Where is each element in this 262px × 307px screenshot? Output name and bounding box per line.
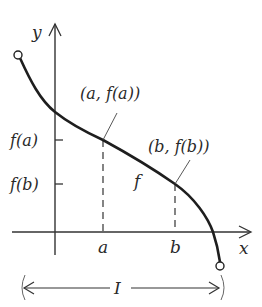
- y-axis-label: y: [31, 22, 42, 42]
- x-tick-label-a: a: [98, 237, 108, 257]
- point-label-a: (a, f(a)): [80, 84, 140, 103]
- left-open-endpoint: [14, 51, 22, 59]
- function-label: f: [132, 171, 143, 191]
- y-tick-label-fb: f(b): [9, 175, 39, 194]
- x-axis-label: x: [239, 238, 249, 258]
- interval-label: I: [113, 278, 121, 298]
- interval-arrow: [22, 275, 224, 300]
- x-tick-label-b: b: [170, 237, 181, 257]
- y-tick-label-fa: f(a): [9, 131, 38, 150]
- leader-b: [175, 160, 190, 184]
- point-label-b: (b, f(b)): [148, 137, 210, 156]
- diagram-canvas: y x f(a) f(b) a b (a, f(a)) (b, f(b)) f: [0, 0, 262, 307]
- leader-a: [103, 113, 117, 140]
- right-open-endpoint: [216, 262, 224, 270]
- function-diagram: y x f(a) f(b) a b (a, f(a)) (b, f(b)) f: [0, 0, 262, 307]
